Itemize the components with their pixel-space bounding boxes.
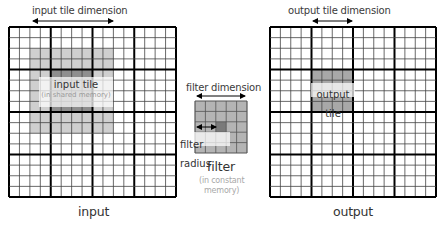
filter-sublabel-line2: memory): [204, 186, 239, 195]
input-tile-dimension-label: input tile dimension: [32, 5, 128, 16]
input-tile-sublabel: (in shared memory): [39, 91, 113, 99]
output-tile-dimension-label: output tile dimension: [288, 5, 391, 16]
filter-center-cell: [216, 122, 226, 132]
input-tile-label: input tile: [39, 79, 113, 90]
output-caption: output: [333, 204, 373, 219]
input-tile-label-box: input tile (in shared memory): [39, 77, 113, 107]
filter-caption: filter: [207, 159, 235, 174]
filter-radius-label-box: filter radius: [180, 132, 230, 146]
input-grid: [9, 27, 176, 197]
filter-dimension-label: filter dimension: [186, 82, 261, 93]
filter-sublabel-line1: (in constant: [199, 176, 244, 185]
output-tile-label-box: output tile: [311, 83, 355, 97]
input-caption: input: [78, 204, 109, 219]
output-grid: [270, 27, 436, 197]
